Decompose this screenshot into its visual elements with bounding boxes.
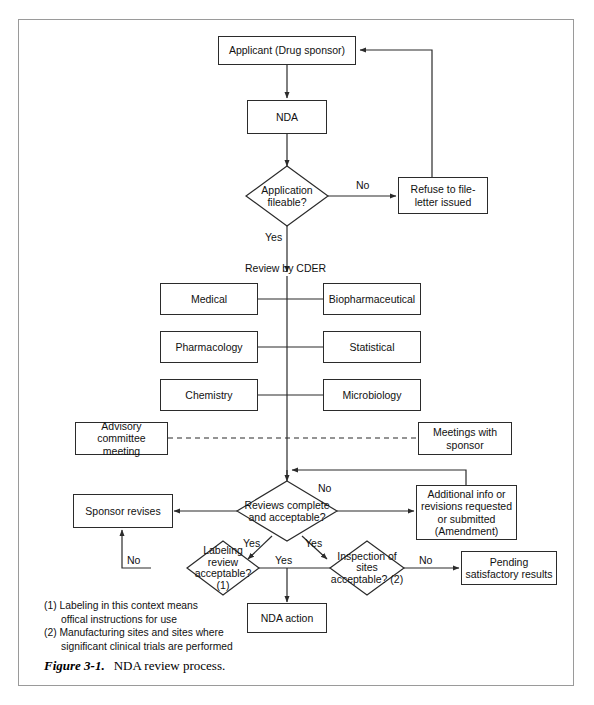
node-pharmacology: Pharmacology <box>160 331 258 363</box>
edge-label-inspection-no: No <box>419 555 432 566</box>
label-review-by-cder-text: Review by CDER <box>245 262 326 274</box>
text-line: Additional info or <box>421 488 512 501</box>
text-line: acceptable? <box>269 511 326 523</box>
edge-label-text: No <box>419 554 432 566</box>
node-pharmacology-label: Pharmacology <box>175 341 242 354</box>
node-pending-results: Pending satisfactory results <box>461 551 557 585</box>
edge-label-labeling-no: No <box>127 555 140 566</box>
text-line: review <box>208 556 238 568</box>
figure-page: Refuse to file --> down through Review b… <box>0 0 594 705</box>
text-line: Pending <box>466 556 553 569</box>
edge-label-text: No <box>356 179 369 191</box>
node-applicant-label: Applicant (Drug sponsor) <box>229 44 345 57</box>
edge-label-fileable-yes: Yes <box>265 232 282 243</box>
text-line: committee meeting <box>79 432 164 457</box>
node-chemistry-label: Chemistry <box>185 389 232 402</box>
node-microbiology: Microbiology <box>323 379 421 411</box>
text-line: revisions requested <box>421 500 512 513</box>
node-nda-action-label: NDA action <box>261 612 314 625</box>
node-chemistry: Chemistry <box>160 379 258 411</box>
text-line: of sites <box>356 550 397 574</box>
node-statistical-label: Statistical <box>350 341 395 354</box>
node-biopharmaceutical-label: Biopharmaceutical <box>329 293 415 306</box>
node-microbiology-label: Microbiology <box>343 389 402 402</box>
text-line: Meetings with <box>433 426 497 439</box>
edge-label-reviews-yes-left: Yes <box>243 538 260 549</box>
text-line: fileable? <box>267 196 306 208</box>
text-line: Inspection <box>337 550 385 562</box>
text-line: (2) <box>390 573 403 585</box>
node-sponsor-revises: Sponsor revises <box>73 494 173 528</box>
node-labeling-review-label: Labeling review acceptable? (1) <box>187 541 259 595</box>
node-meetings-with-sponsor: Meetings with sponsor <box>418 422 512 455</box>
node-inspection-of-sites-label: Inspection of sites acceptable? (2) <box>330 541 404 595</box>
node-advisory-committee: Advisory committee meeting <box>75 422 168 455</box>
node-inspection-of-sites: Inspection of sites acceptable? (2) <box>330 541 404 595</box>
node-statistical: Statistical <box>323 331 421 363</box>
text-line: letter issued <box>411 196 476 209</box>
node-medical: Medical <box>160 283 258 315</box>
edge-label-text: Yes <box>275 554 292 566</box>
node-sponsor-revises-label: Sponsor revises <box>85 505 160 518</box>
edge-label-text: Yes <box>243 537 260 549</box>
text-line: Application <box>261 184 312 196</box>
text-line: Labeling <box>203 544 243 556</box>
text-line: sponsor <box>433 439 497 452</box>
node-biopharmaceutical: Biopharmaceutical <box>323 283 421 315</box>
edge-label-labeling-yes: Yes <box>275 555 292 566</box>
node-refuse-to-file: Refuse to file- letter issued <box>398 177 488 214</box>
footnote-1-line-1: (1) Labeling in this context means <box>44 599 233 613</box>
figure-caption: Figure 3-1.NDA review process. <box>44 658 225 674</box>
text-line: Advisory <box>79 420 164 433</box>
edge-label-reviews-no: No <box>318 483 331 494</box>
footnotes: (1) Labeling in this context means offic… <box>44 599 233 653</box>
footnote-1-line-2: offical instructions for use <box>44 613 233 627</box>
node-nda: NDA <box>247 100 327 134</box>
text-line: (1) <box>217 579 230 591</box>
text-line: acceptable? <box>195 567 252 579</box>
node-additional-info: Additional info or revisions requested o… <box>416 485 517 540</box>
edge-label-text: No <box>127 554 140 566</box>
text-line: Refuse to file- <box>411 183 476 196</box>
edge-label-text: Yes <box>305 537 322 549</box>
text-line: or submitted <box>421 513 512 526</box>
node-application-fileable: Application fileable? <box>246 166 328 226</box>
text-line: Reviews <box>244 499 284 511</box>
node-labeling-review: Labeling review acceptable? (1) <box>187 541 259 595</box>
text-line: satisfactory results <box>466 568 553 581</box>
edge-label-fileable-no: No <box>356 180 369 191</box>
figure-number: Figure 3-1. <box>44 658 105 673</box>
node-nda-label: NDA <box>276 111 298 124</box>
text-line: (Amendment) <box>421 525 512 538</box>
text-line: complete and <box>248 499 329 523</box>
node-application-fileable-label: Application fileable? <box>246 166 328 226</box>
edge-label-text: No <box>318 482 331 494</box>
footnote-2-line-1: (2) Manufacturing sites and sites where <box>44 626 233 640</box>
text-line: acceptable? <box>331 573 388 585</box>
node-medical-label: Medical <box>191 293 227 306</box>
footnote-2-line-2: significant clinical trials are performe… <box>44 640 233 654</box>
node-applicant: Applicant (Drug sponsor) <box>218 36 356 65</box>
figure-title: NDA review process. <box>105 658 226 673</box>
label-review-by-cder: Review by CDER <box>245 262 326 274</box>
node-nda-action: NDA action <box>247 603 327 633</box>
edge-label-reviews-yes-right: Yes <box>305 538 322 549</box>
edge-label-text: Yes <box>265 231 282 243</box>
